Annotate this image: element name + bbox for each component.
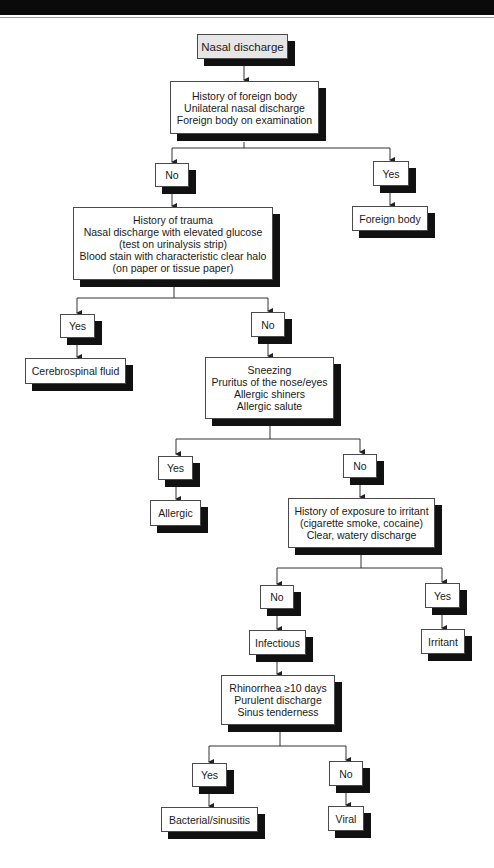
node-line: Nasal discharge with elevated glucose: [84, 226, 263, 238]
node-q4-yes: Yes: [425, 583, 460, 608]
node-line: (cigarette smoke, cocaine): [300, 517, 423, 529]
node-line: Rhinorrhea ≥10 days: [229, 682, 326, 694]
node-line: (test on urinalysis strip): [119, 238, 227, 250]
node-trauma-question: History of trauma Nasal discharge with e…: [73, 207, 273, 280]
node-q2-no: No: [251, 312, 285, 337]
answer-label: No: [270, 591, 283, 603]
node-line: History of exposure to irritant: [294, 505, 428, 517]
node-q1-no: No: [155, 163, 189, 187]
node-label: Nasal discharge: [201, 41, 283, 53]
node-line: History of foreign body: [192, 90, 297, 102]
node-sinusitis-question: Rhinorrhea ≥10 days Purulent discharge S…: [221, 675, 335, 725]
node-q2-yes: Yes: [60, 314, 95, 338]
node-q5-no: No: [329, 761, 363, 786]
answer-label: Yes: [167, 462, 184, 474]
node-line: Clear, watery discharge: [307, 529, 417, 541]
node-line: Foreign body on examination: [177, 114, 312, 126]
result-label: Cerebrospinal fluid: [32, 365, 120, 377]
node-q3-no: No: [343, 454, 377, 478]
result-label: Allergic: [158, 507, 192, 519]
node-line: Pruritus of the nose/eyes: [211, 376, 327, 388]
node-result-allergic: Allergic: [150, 500, 201, 526]
answer-label: Yes: [69, 320, 86, 332]
answer-label: No: [261, 319, 274, 331]
node-line: (on paper or tissue paper): [113, 262, 234, 274]
node-result-infectious: Infectious: [249, 630, 306, 655]
node-foreign-body-question: History of foreign body Unilateral nasal…: [170, 81, 319, 134]
node-result-irritant: Irritant: [421, 629, 465, 654]
node-q1-yes: Yes: [373, 161, 409, 186]
node-irritant-question: History of exposure to irritant (cigaret…: [288, 498, 435, 548]
node-result-bacterial-sinusitis: Bacterial/sinusitis: [161, 807, 258, 832]
node-line: Sneezing: [248, 364, 292, 376]
answer-label: Yes: [382, 168, 399, 180]
answer-label: Yes: [434, 590, 451, 602]
result-label: Foreign body: [359, 213, 420, 225]
node-line: Sinus tenderness: [237, 706, 318, 718]
node-line: History of trauma: [133, 214, 213, 226]
answer-label: No: [165, 169, 178, 181]
node-nasal-discharge: Nasal discharge: [197, 34, 288, 59]
node-result-foreign-body: Foreign body: [352, 206, 428, 231]
node-line: Purulent discharge: [234, 694, 322, 706]
result-label: Irritant: [428, 636, 458, 648]
node-line: Allergic salute: [237, 400, 302, 412]
node-line: Unilateral nasal discharge: [184, 102, 305, 114]
node-line: Blood stain with characteristic clear ha…: [80, 250, 267, 262]
node-allergy-question: Sneezing Pruritus of the nose/eyes Aller…: [205, 357, 334, 419]
node-q4-no: No: [260, 585, 294, 609]
node-q3-yes: Yes: [158, 456, 193, 480]
node-result-cerebrospinal-fluid: Cerebrospinal fluid: [25, 358, 126, 384]
answer-label: Yes: [201, 769, 218, 781]
node-line: Allergic shiners: [234, 388, 305, 400]
answer-label: No: [353, 460, 366, 472]
answer-label: No: [339, 768, 352, 780]
result-label: Infectious: [255, 637, 300, 649]
result-label: Bacterial/sinusitis: [169, 814, 250, 826]
result-label: Viral: [336, 813, 357, 825]
node-result-viral: Viral: [328, 806, 364, 831]
node-q5-yes: Yes: [192, 763, 227, 787]
